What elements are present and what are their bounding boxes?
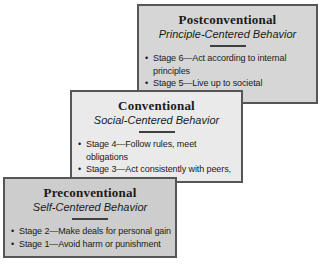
bullet-text: Stage 2—Make deals for personal gain (19, 225, 171, 238)
divider-line (210, 45, 246, 47)
box-conventional: Conventional Social-Centered Behavior • … (70, 90, 243, 183)
bullet-icon: • (78, 138, 86, 163)
box-subtitle: Principle-Centered Behavior (139, 28, 316, 41)
bullet-icon: • (11, 225, 19, 238)
bullet-text: Stage 4—Follow rules, meet obligations (86, 138, 237, 163)
box-title: Preconventional (5, 185, 175, 200)
box-postconventional: Postconventional Principle-Centered Beha… (137, 4, 318, 104)
bullet-icon: • (11, 238, 19, 251)
bullet-text: Stage 1—Avoid harm or punishment (19, 238, 171, 251)
box-title: Postconventional (139, 12, 316, 27)
bullet-item: • Stage 6—Act according to internal prin… (145, 52, 312, 77)
kohlberg-moral-development-diagram: Postconventional Principle-Centered Beha… (0, 0, 325, 269)
bullet-list: • Stage 2—Make deals for personal gain •… (5, 225, 175, 250)
bullet-item: • Stage 1—Avoid harm or punishment (11, 238, 171, 251)
bullet-icon: • (145, 52, 153, 77)
divider-line (72, 218, 108, 220)
divider-line (139, 131, 175, 133)
bullet-item: • Stage 2—Make deals for personal gain (11, 225, 171, 238)
bullet-item: • Stage 4—Follow rules, meet obligations (78, 138, 237, 163)
box-subtitle: Self-Centered Behavior (5, 201, 175, 214)
box-subtitle: Social-Centered Behavior (72, 114, 241, 127)
box-preconventional: Preconventional Self-Centered Behavior •… (3, 177, 177, 258)
bullet-text: Stage 6—Act according to internal princi… (153, 52, 312, 77)
box-title: Conventional (72, 98, 241, 113)
